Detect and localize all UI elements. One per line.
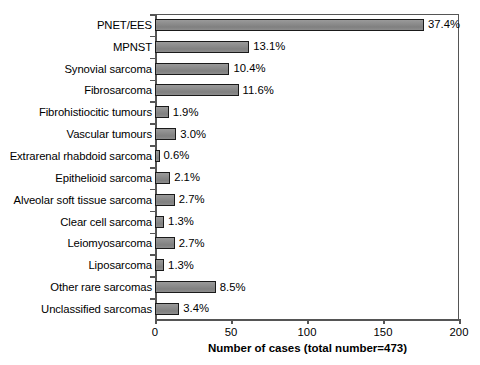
y-axis-tick <box>150 211 155 213</box>
x-axis-tick-label: 50 <box>225 326 238 338</box>
bar-value-label: 1.9% <box>173 107 199 118</box>
y-axis-tick <box>150 254 155 256</box>
bar-group: 10.4% <box>155 63 266 75</box>
category-label: Leiomyosarcoma <box>67 237 152 249</box>
x-axis-tick-label: 0 <box>152 326 158 338</box>
x-axis-tick <box>155 319 157 324</box>
x-axis-tick <box>231 319 233 324</box>
bar <box>155 106 169 118</box>
category-label: Other rare sarcomas <box>50 281 152 293</box>
x-axis-tick <box>459 319 461 324</box>
bar-value-label: 13.1% <box>253 41 285 52</box>
bar-value-label: 1.3% <box>168 216 194 227</box>
y-axis-tick <box>150 80 155 82</box>
horizontal-bar-chart: PNET/EES37.4%MPNST13.1%Synovial sarcoma1… <box>0 0 480 365</box>
bar-value-label: 10.4% <box>233 63 265 74</box>
bar-row: Alveolar soft tissue sarcoma2.7% <box>0 189 480 211</box>
y-axis-tick <box>150 14 155 16</box>
bar-value-label: 0.6% <box>164 150 190 161</box>
bar-row: Extrarenal rhabdoid sarcoma0.6% <box>0 145 480 167</box>
bar-row: Synovial sarcoma10.4% <box>0 58 480 80</box>
bar <box>155 41 249 53</box>
x-axis-tick-label: 150 <box>374 326 393 338</box>
bar-row: Liposarcoma1.3% <box>0 254 480 276</box>
x-axis-tick <box>307 319 309 324</box>
bar-group: 1.3% <box>155 259 194 271</box>
bar-group: 8.5% <box>155 281 246 293</box>
bar-row: Fibrohistiocitic tumours1.9% <box>0 101 480 123</box>
x-axis-tick <box>383 319 385 324</box>
bar <box>155 63 229 75</box>
y-axis-tick <box>150 276 155 278</box>
bar-row: Leiomyosarcoma2.7% <box>0 233 480 255</box>
y-axis-tick <box>150 123 155 125</box>
category-label: Liposarcoma <box>88 259 152 271</box>
bar-row: Unclassified sarcomas3.4% <box>0 298 480 320</box>
category-label: Epithelioid sarcoma <box>55 172 152 184</box>
bar <box>155 259 164 271</box>
x-axis-tick-label: 100 <box>298 326 317 338</box>
category-label: Unclassified sarcomas <box>41 303 152 315</box>
y-axis-tick <box>150 36 155 38</box>
bar <box>155 194 175 206</box>
bar-row: Other rare sarcomas8.5% <box>0 276 480 298</box>
y-axis-tick <box>150 101 155 103</box>
x-axis-tick-label: 200 <box>450 326 469 338</box>
category-label: Fibrosarcoma <box>84 84 152 96</box>
y-axis-tick <box>150 233 155 235</box>
bar-value-label: 2.7% <box>179 194 205 205</box>
y-axis-tick <box>150 189 155 191</box>
bar-value-label: 37.4% <box>428 19 460 30</box>
bar-row: Vascular tumours3.0% <box>0 123 480 145</box>
y-axis-tick <box>150 145 155 147</box>
bar-group: 1.3% <box>155 216 194 228</box>
bar-value-label: 1.3% <box>168 260 194 271</box>
bar <box>155 150 160 162</box>
bar <box>155 216 164 228</box>
bar-value-label: 2.1% <box>174 172 200 183</box>
bar-group: 0.6% <box>155 150 189 162</box>
bar <box>155 172 170 184</box>
bar-row: Epithelioid sarcoma2.1% <box>0 167 480 189</box>
x-axis-title: Number of cases (total number=473) <box>155 342 460 354</box>
category-label: Synovial sarcoma <box>64 63 152 75</box>
category-label: PNET/EES <box>97 19 152 31</box>
bar-value-label: 11.6% <box>243 85 274 96</box>
bar-group: 13.1% <box>155 41 285 53</box>
bar-row: MPNST13.1% <box>0 36 480 58</box>
bar <box>155 19 424 31</box>
bar <box>155 303 179 315</box>
bar-value-label: 2.7% <box>179 238 205 249</box>
bar-group: 3.0% <box>155 128 206 140</box>
bar-row: Clear cell sarcoma1.3% <box>0 211 480 233</box>
category-label: Vascular tumours <box>67 128 152 140</box>
bar-group: 2.7% <box>155 194 205 206</box>
bar-value-label: 3.0% <box>180 129 206 140</box>
category-label: Extrarenal rhabdoid sarcoma <box>10 150 152 162</box>
bar-group: 37.4% <box>155 19 460 31</box>
bar-group: 1.9% <box>155 106 198 118</box>
category-label: Fibrohistiocitic tumours <box>39 106 152 118</box>
category-label: MPNST <box>113 41 152 53</box>
bar-value-label: 3.4% <box>183 303 209 314</box>
bar <box>155 237 175 249</box>
y-axis-tick <box>150 167 155 169</box>
y-axis-tick <box>150 58 155 60</box>
bar <box>155 128 176 140</box>
bar-value-label: 8.5% <box>220 282 246 293</box>
y-axis-tick <box>150 298 155 300</box>
category-label: Clear cell sarcoma <box>60 216 152 228</box>
bar-group: 11.6% <box>155 84 274 96</box>
bar <box>155 84 239 96</box>
bar-row: PNET/EES37.4% <box>0 14 480 36</box>
bar-group: 2.1% <box>155 172 200 184</box>
bar-group: 3.4% <box>155 303 209 315</box>
category-label: Alveolar soft tissue sarcoma <box>14 194 152 206</box>
bar <box>155 281 216 293</box>
bar-row: Fibrosarcoma11.6% <box>0 80 480 102</box>
bar-group: 2.7% <box>155 237 205 249</box>
